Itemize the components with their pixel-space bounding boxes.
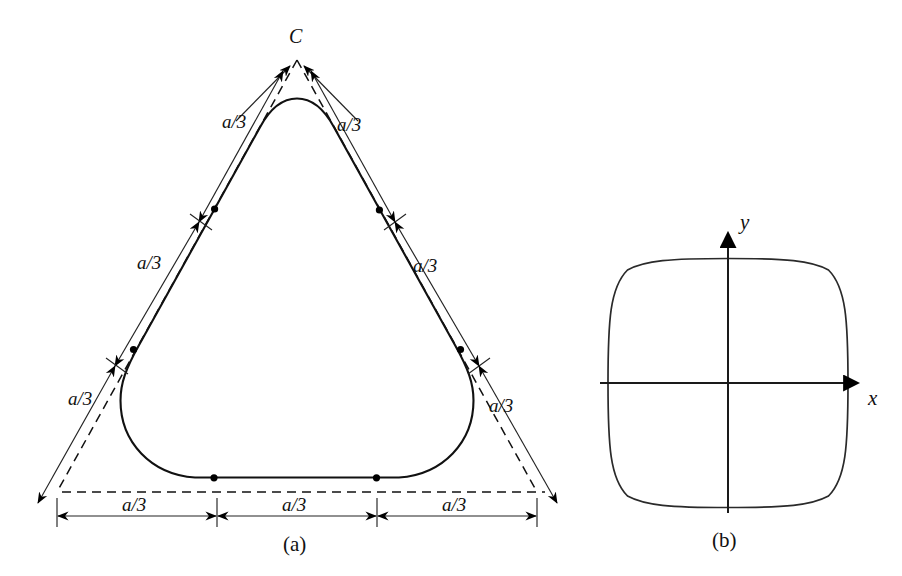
trisection-dots [130,205,464,481]
axis-label-y: y [740,212,749,233]
dimension-label-right-upper: a/3 [337,115,361,134]
right-side-dimension-middle [395,222,490,374]
dimension-label-left-upper: a/3 [222,112,246,131]
left-side-dimension-upper [190,71,283,230]
rounded-triangle-curve [121,99,474,478]
panel-a-group [38,60,557,527]
panel-b-group [600,233,858,513]
construction-triangle-dashed [57,60,545,492]
dimension-label-left-middle: a/3 [137,253,161,272]
axis-label-x: x [868,388,877,409]
dimension-label-bottom-left: a/3 [117,495,151,514]
caption-panel-b: (b) [712,530,737,551]
right-side-dimension-upper [311,71,406,230]
left-side-dimension-lower [38,366,115,503]
left-side-dimension-middle [106,222,199,374]
figure-canvas: C a/3 a/3 a/3 a/3 a/3 a/3 a/3 a/3 a/3 y … [0,0,902,576]
dimension-label-right-middle: a/3 [413,256,437,275]
figure-svg [0,0,902,576]
dimension-label-bottom-center: a/3 [277,495,311,514]
apex-dimension-arrows [236,66,358,121]
right-side-dimension-lower [479,366,557,503]
caption-panel-a: (a) [283,534,306,555]
dimension-label-left-lower: a/3 [68,389,92,408]
apex-label-c: C [289,26,302,46]
dimension-label-right-lower: a/3 [489,396,513,415]
dimension-label-bottom-right: a/3 [437,495,471,514]
